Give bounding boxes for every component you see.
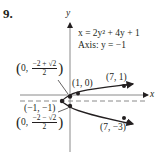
parabola-curve <box>62 84 132 124</box>
problem-number: 9. <box>3 6 13 22</box>
y-axis-label: y <box>66 9 70 19</box>
upper-y-intercept-point <box>68 94 72 98</box>
equation-line-2: Axis: y = −1 <box>78 41 126 51</box>
x-intercept-point <box>76 92 80 96</box>
lower-y-intercept-point <box>68 104 72 108</box>
upper-point-label: (7, 1) <box>106 73 127 83</box>
equation-line-1: x = 2y² + 4y + 1 <box>78 29 140 39</box>
upper-y-intercept-label: (0, −2 + √22) <box>16 60 63 77</box>
upper-point <box>122 84 126 88</box>
vertex-point <box>60 99 64 103</box>
lower-y-intercept-label: (0, −2 − √22) <box>16 114 63 131</box>
lower-point-label: (7, −3) <box>100 123 126 133</box>
x-intercept-label: (1, 0) <box>72 79 93 89</box>
x-axis-label: x <box>150 90 154 100</box>
lower-point <box>122 116 126 120</box>
